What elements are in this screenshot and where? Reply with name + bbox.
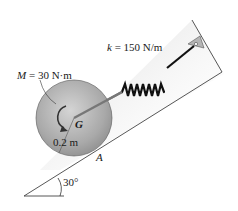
angle-label: 30° — [63, 177, 78, 188]
spring-symbol: k — [107, 41, 112, 53]
spring-value: = 150 N/m — [115, 41, 163, 53]
radius-label: 0.2 m — [53, 137, 78, 148]
angle-arc — [58, 178, 61, 196]
moment-label: M = 30 N·m — [17, 70, 72, 81]
center-label: G — [75, 119, 83, 130]
contact-label: A — [96, 152, 103, 163]
spring-label: k = 150 N/m — [107, 42, 162, 53]
pin-icon — [194, 42, 197, 45]
moment-symbol: M — [17, 69, 26, 81]
moment-value: = 30 N·m — [29, 69, 72, 81]
diagram-canvas — [0, 0, 238, 211]
